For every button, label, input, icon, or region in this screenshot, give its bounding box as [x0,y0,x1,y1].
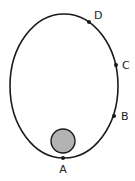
point-D: D [87,9,102,24]
point-B-label: B [121,110,129,123]
point-A-dot [61,156,65,160]
central-body-planet [51,129,75,153]
point-A-label: A [59,163,67,176]
point-D-label: D [94,9,102,22]
point-C-dot [114,63,118,67]
point-A: A [59,156,67,176]
point-C-label: C [122,59,130,72]
point-D-dot [87,20,91,24]
orbit-diagram: A B C D [0,0,135,181]
point-B-dot [112,114,116,118]
